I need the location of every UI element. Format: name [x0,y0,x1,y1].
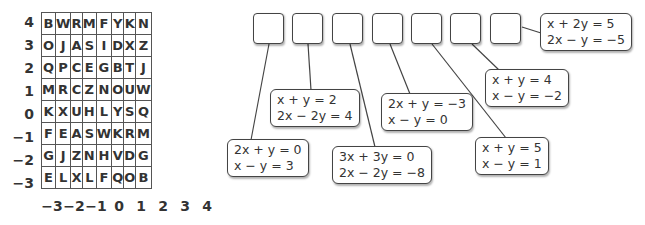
system-box-4: 2x + y = −3 x − y = 0 [381,93,473,131]
equation: 2x − 2y = 4 [277,108,353,124]
system-box-5: x + y = 5 x − y = 1 [475,137,549,175]
equation: x + y = 2 [277,92,353,108]
equation: x − y = −2 [492,88,562,104]
equation: 2x + y = 0 [234,142,302,158]
answer-box-3[interactable] [332,13,363,44]
equation: x − y = 3 [234,158,302,174]
answer-box-5[interactable] [411,13,442,44]
answer-box-7[interactable] [490,13,521,44]
equation: x + y = 5 [482,140,542,156]
system-box-7: x + 2y = 5 2x − y = −5 [540,13,632,51]
system-box-3: 3x + 3y = 0 2x − 2y = −8 [332,146,432,184]
answer-box-6[interactable] [450,13,481,44]
equation: 2x − 2y = −8 [339,165,425,181]
equation: 3x + 3y = 0 [339,149,425,165]
system-box-6: x + y = 4 x − y = −2 [485,69,569,107]
equation: 2x + y = −3 [388,96,466,112]
equation: x + 2y = 5 [547,16,625,32]
answer-box-1[interactable] [253,13,284,44]
system-box-2: x + y = 2 2x − 2y = 4 [270,89,360,127]
system-box-1: 2x + y = 0 x − y = 3 [227,139,309,177]
equation: 2x − y = −5 [547,32,625,48]
answer-box-2[interactable] [292,13,323,44]
equation: x + y = 4 [492,72,562,88]
equation: x − y = 1 [482,156,542,172]
equation: x − y = 0 [388,112,466,128]
answer-box-4[interactable] [372,13,403,44]
